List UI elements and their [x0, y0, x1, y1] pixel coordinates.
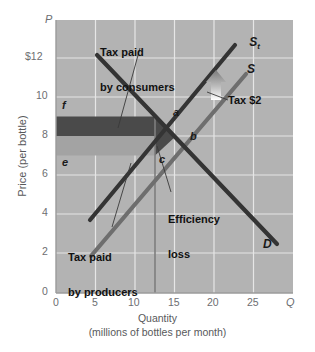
region-tax-paid-by-producers	[56, 136, 155, 156]
supply-demand-tax-chart: P Q $12 10 8 6 4 2 0 0 5 10 15 20 25 Pri…	[0, 0, 315, 352]
curve-label-st-subscript: t	[257, 42, 260, 51]
y-tick-2: 2	[42, 246, 48, 257]
annotation-consumers-line2: by consumers	[100, 82, 175, 94]
x-axis-title: Quantity	[0, 313, 315, 324]
annotation-tax-amount: Tax $2	[228, 95, 261, 107]
y-tick-12: $12	[25, 51, 43, 62]
x-tick-20: 20	[207, 297, 219, 308]
curve-label-supply-after-tax: St	[236, 23, 260, 65]
x-tick-25: 25	[247, 297, 259, 308]
curve-label-supply: S	[247, 63, 255, 76]
curve-label-demand: D	[263, 238, 272, 251]
point-label-f: f	[62, 100, 66, 112]
region-tax-paid-by-consumers	[56, 117, 155, 137]
annotation-efficiency-line2: loss	[168, 249, 220, 261]
x-axis-subtitle: (millions of bottles per month)	[0, 327, 315, 338]
x-tick-15: 15	[168, 297, 180, 308]
point-label-c: c	[159, 154, 165, 166]
point-label-b: b	[190, 131, 197, 143]
y-tick-4: 4	[42, 207, 48, 218]
y-axis-symbol: P	[45, 14, 52, 26]
point-label-e: e	[62, 157, 68, 169]
y-tick-6: 6	[42, 168, 48, 179]
annotation-efficiency-line1: Efficiency	[168, 214, 220, 226]
annotation-producers-line1: Tax paid	[68, 252, 138, 264]
y-tick-0: 0	[42, 286, 48, 297]
annotation-tax-paid-by-producers: Tax paid by producers	[68, 228, 138, 323]
y-tick-8: 8	[42, 129, 48, 140]
annotation-consumers-line1: Tax paid	[100, 47, 175, 59]
x-axis-symbol: Q	[286, 297, 295, 309]
annotation-producers-line2: by producers	[68, 287, 138, 299]
y-tick-10: 10	[36, 90, 48, 101]
annotation-tax-paid-by-consumers: Tax paid by consumers	[100, 23, 175, 118]
y-axis-title: Price (per bottle)	[16, 101, 28, 211]
x-tick-0: 0	[53, 297, 59, 308]
annotation-efficiency-loss: Efficiency loss	[168, 190, 220, 285]
